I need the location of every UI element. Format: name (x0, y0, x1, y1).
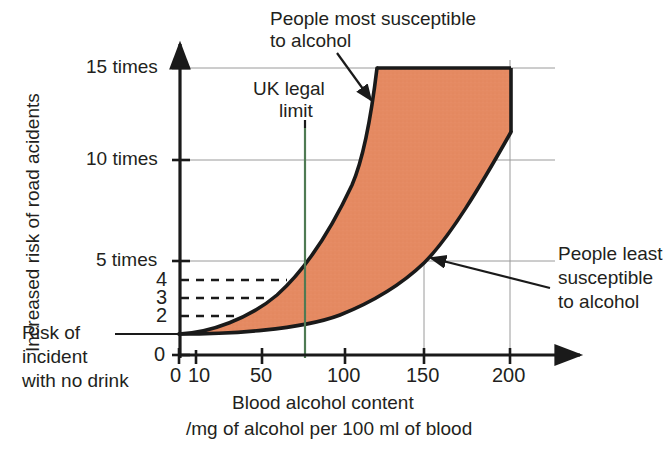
y-axis-title: Increased risk of road acidents (22, 93, 44, 352)
annotation-uk-legal-limit-line1: UK legal (253, 78, 325, 100)
leader-most-susceptible (337, 53, 371, 100)
x-tick-label-50: 50 (250, 364, 272, 388)
x-tick-label-150: 150 (406, 364, 439, 388)
risk-band (179, 68, 511, 334)
x-tick-label-200: 200 (492, 364, 525, 388)
x-axis-title-line2: /mg of alcohol per 100 ml of blood (186, 418, 472, 440)
y-tick-label-0: 0 (154, 343, 165, 367)
annotation-uk-legal-limit-line2: limit (279, 100, 313, 122)
annotation-most-susceptible-line2: to alcohol (270, 30, 351, 52)
annotation-baseline-risk-line2: incident (22, 346, 88, 368)
leader-least-susceptible (431, 258, 550, 288)
annotation-least-susceptible-line2: susceptible (558, 267, 653, 289)
y-tick-label-10: 10 times (86, 148, 158, 170)
annotation-least-susceptible-line3: to alcohol (558, 291, 639, 313)
y-tick-label-5: 5 times (96, 249, 157, 271)
x-tick-label-10: 10 (188, 364, 210, 388)
annotation-baseline-risk-line3: with no drink (22, 370, 129, 392)
annotation-most-susceptible-line1: People most susceptible (270, 8, 476, 30)
y-tick-label-15: 15 times (86, 56, 158, 78)
annotation-baseline-risk-line1: Risk of (22, 322, 80, 344)
y-tick-label-2: 2 (156, 304, 167, 328)
annotation-least-susceptible-line1: People least (558, 243, 663, 265)
x-tick-label-100: 100 (327, 364, 360, 388)
x-tick-label-0: 0 (170, 364, 181, 388)
x-axis-title-line1: Blood alcohol content (232, 392, 414, 414)
